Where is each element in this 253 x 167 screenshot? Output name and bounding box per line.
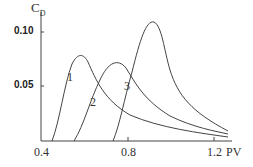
y-axis-label: CD [31,0,45,18]
curve-label-1: 1 [67,70,73,85]
curve-label-2: 2 [90,95,96,110]
x-axis-label: PV [226,145,241,160]
curve-3 [113,22,228,141]
y-tick-low: 0.05 [14,79,33,90]
curve-2 [74,63,228,141]
x-tick-1: 0.8 [121,145,136,160]
x-tick-2: 1.2 [207,145,222,160]
x-tick-0: 0.4 [34,145,49,160]
y-tick-top: 0.10 [14,25,33,36]
curve-label-3: 3 [124,79,130,94]
